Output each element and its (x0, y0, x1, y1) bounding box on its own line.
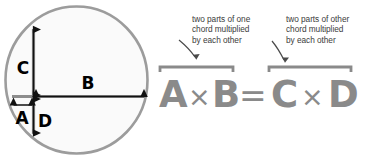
equation-token-c: C (271, 76, 298, 113)
equation-token-b: B (212, 76, 240, 113)
chord-circle-diagram: C A D B (0, 0, 160, 164)
equation-token-d: D (328, 76, 359, 113)
equation-token-times-1: × (188, 83, 211, 110)
equation-expression: A × B = C × D (155, 72, 377, 122)
equation-token-equals: = (239, 79, 267, 112)
segment-label-c: C (17, 58, 29, 78)
equation-token-times-2: × (301, 83, 324, 110)
equation-token-a: A (159, 76, 188, 113)
figure-canvas: C A D B two parts of one chord multiplie… (0, 0, 377, 164)
segment-label-a: A (15, 108, 29, 128)
segment-label-b: B (82, 73, 95, 93)
segment-label-d: D (38, 111, 52, 131)
pointer-arrow-left (179, 40, 195, 57)
circle-shape (6, 7, 148, 154)
pointer-arrow-right (272, 41, 284, 60)
equation-panel: two parts of one chord multiplied by eac… (155, 0, 377, 164)
